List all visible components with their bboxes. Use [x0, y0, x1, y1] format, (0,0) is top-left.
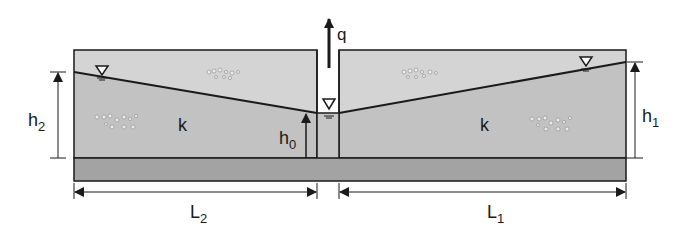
head-right-label: h1 — [642, 106, 659, 130]
well-water — [317, 113, 339, 158]
conductivity-left-label: k — [178, 115, 188, 135]
length-right-dimension — [339, 183, 626, 199]
length-left-label: L2 — [190, 202, 207, 226]
base-layer — [74, 158, 626, 181]
head-left-label: h2 — [28, 110, 45, 134]
head-right-dimension — [627, 62, 643, 158]
flow-label: q — [337, 25, 346, 44]
conductivity-right-label: k — [480, 115, 490, 135]
aquifer-diagram: q k k h2 h1 h0 L2 L1 — [0, 0, 692, 233]
right-aquifer — [339, 50, 626, 158]
length-right-label: L1 — [487, 202, 504, 226]
length-left-dimension — [74, 183, 317, 199]
head-left-dimension — [50, 72, 66, 158]
